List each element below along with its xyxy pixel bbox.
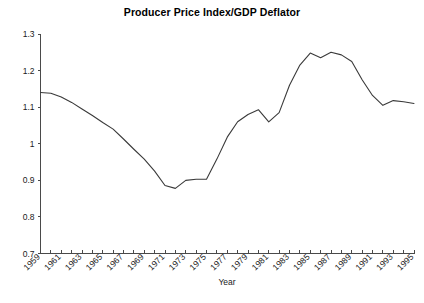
- data-series-group: [41, 52, 415, 188]
- y-tick-label: 1: [30, 139, 35, 149]
- y-tick-label: 0.9: [23, 175, 35, 185]
- x-tick-label: 1993: [374, 252, 395, 273]
- y-axis-tick-labels: 0.70.80.911.11.21.3: [23, 29, 35, 259]
- x-axis: 1959196119631965196719691971197319751977…: [21, 250, 415, 273]
- x-tick-label: 1975: [187, 252, 208, 273]
- x-tick-label: 1967: [104, 252, 125, 273]
- data-line-ppi-gdp-deflator: [41, 52, 415, 188]
- chart-figure: Producer Price Index/GDP Deflator 0.70.8…: [0, 0, 424, 303]
- x-tick-label: 1995: [395, 252, 416, 273]
- y-tick-label: 1.3: [23, 29, 35, 39]
- x-tick-label: 1977: [208, 252, 229, 273]
- x-tick-label: 1963: [63, 252, 84, 273]
- x-tick-label: 1965: [84, 252, 105, 273]
- x-tick-label: 1961: [42, 252, 63, 273]
- x-tick-label: 1969: [125, 252, 146, 273]
- x-tick-label: 1991: [353, 252, 374, 273]
- x-tick-label: 1989: [333, 252, 354, 273]
- x-tick-label: 1987: [312, 252, 333, 273]
- x-tick-label: 1979: [229, 252, 250, 273]
- y-tick-label: 0.8: [23, 212, 35, 222]
- x-axis-tick-labels: 1959196119631965196719691971197319751977…: [21, 252, 415, 273]
- x-axis-title: Year: [218, 277, 235, 287]
- y-tick-label: 1.1: [23, 102, 35, 112]
- x-tick-label: 1973: [167, 252, 188, 273]
- x-tick-label: 1971: [146, 252, 167, 273]
- y-tick-label: 1.2: [23, 66, 35, 76]
- x-tick-label: 1985: [291, 252, 312, 273]
- x-tick-label: 1981: [250, 252, 271, 273]
- x-tick-label: 1983: [270, 252, 291, 273]
- y-axis: 0.70.80.911.11.21.3: [23, 29, 41, 259]
- chart-plot-area: 0.70.80.911.11.21.3 19591961196319651967…: [0, 0, 424, 303]
